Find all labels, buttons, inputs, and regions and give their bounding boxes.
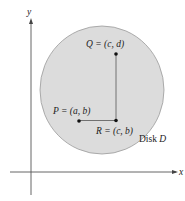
label-r: R = (c, b) [95, 126, 133, 137]
disk-diagram: x y Q = (c, d) P = (a, b) R = (c, b) Dis… [0, 0, 185, 201]
point-q [114, 52, 118, 56]
x-axis-arrow-icon [172, 170, 178, 174]
label-q: Q = (c, d) [86, 39, 124, 50]
x-axis-label: x [178, 167, 184, 177]
y-axis-arrow-icon [29, 18, 33, 24]
point-r [114, 119, 118, 123]
disk-label-symbol: D [158, 134, 166, 144]
y-axis-label: y [26, 7, 32, 17]
disk-label-word: Disk [139, 134, 157, 144]
disk-label: Disk D [139, 134, 166, 144]
label-p: P = (a, b) [52, 106, 90, 117]
point-p [77, 119, 81, 123]
